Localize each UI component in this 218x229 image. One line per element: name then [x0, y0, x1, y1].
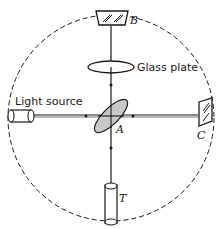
- light-source-label: Light source: [15, 96, 82, 107]
- mirror-c-label: C: [197, 130, 205, 141]
- mirror-b: [96, 11, 128, 25]
- mirror-b-label: B: [130, 15, 138, 26]
- interferometer-diagram: [0, 0, 218, 229]
- glass-plate-label: Glass plate: [137, 62, 198, 73]
- beam-splitter-label: A: [116, 124, 124, 135]
- telescope-label: T: [119, 193, 126, 204]
- telescope-t: [105, 183, 117, 225]
- light-source: [8, 110, 34, 122]
- mirror-c: [199, 98, 212, 126]
